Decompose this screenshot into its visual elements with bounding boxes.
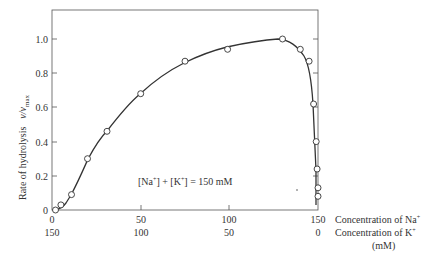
svg-text:0: 0 bbox=[43, 205, 48, 216]
svg-text:0: 0 bbox=[316, 227, 321, 238]
svg-text:1.0: 1.0 bbox=[36, 34, 49, 45]
x-label-na: Concentration of Na+ bbox=[335, 214, 421, 225]
svg-text:50: 50 bbox=[136, 214, 146, 225]
x-tick-labels-na: 0 50 100 150 bbox=[50, 214, 326, 225]
svg-text:0: 0 bbox=[50, 214, 55, 225]
data-point bbox=[53, 207, 59, 213]
data-point bbox=[311, 101, 317, 107]
data-point bbox=[315, 193, 321, 199]
svg-text:150: 150 bbox=[311, 214, 326, 225]
data-point bbox=[138, 91, 144, 97]
svg-text:0.2: 0.2 bbox=[36, 171, 49, 182]
svg-text:0.4: 0.4 bbox=[36, 137, 49, 148]
x-label-k: Concentration of K+ bbox=[335, 227, 416, 238]
data-point bbox=[280, 36, 286, 42]
data-point bbox=[306, 58, 312, 64]
svg-text:0.8: 0.8 bbox=[36, 68, 49, 79]
data-point bbox=[314, 166, 320, 172]
data-point bbox=[297, 46, 303, 52]
data-point bbox=[182, 58, 188, 64]
svg-text:100: 100 bbox=[222, 214, 237, 225]
y-tick-labels: 0 0.2 0.4 0.6 0.8 1.0 bbox=[36, 34, 49, 216]
data-point bbox=[58, 202, 64, 208]
data-point bbox=[104, 128, 110, 134]
sum-annotation: [Na+] + [K+] = 150 mM bbox=[138, 176, 233, 187]
svg-text:0.6: 0.6 bbox=[36, 102, 49, 113]
x-tick-labels-k: 150 100 50 0 bbox=[45, 227, 321, 238]
chart: 0 0.2 0.4 0.6 0.8 1.0 0 50 100 150 150 1… bbox=[0, 0, 447, 255]
svg-text:100: 100 bbox=[134, 227, 149, 238]
y-axis-label: Rate of hydrolysisv/vmax bbox=[17, 94, 31, 200]
data-point bbox=[225, 46, 231, 52]
data-point bbox=[315, 185, 321, 191]
data-point bbox=[85, 156, 91, 162]
data-point bbox=[313, 139, 319, 145]
x-axis-ticks bbox=[141, 205, 229, 210]
x-label-units: (mM) bbox=[372, 240, 395, 252]
data-point bbox=[69, 192, 75, 198]
stray-mark bbox=[296, 189, 298, 191]
svg-text:50: 50 bbox=[224, 227, 234, 238]
svg-text:150: 150 bbox=[45, 227, 60, 238]
